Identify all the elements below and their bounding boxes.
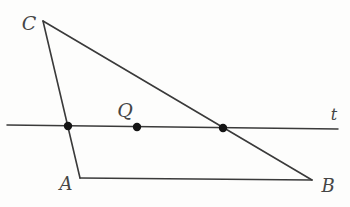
- side-CA: [43, 21, 80, 178]
- geometry-figure: CABQt: [0, 0, 350, 207]
- label-B: B: [320, 175, 334, 196]
- intersection-CA-t-dot: [64, 122, 72, 130]
- line-t: [7, 125, 338, 129]
- point-Q-dot: [133, 123, 141, 131]
- side-AB: [80, 178, 312, 180]
- label-t: t: [331, 105, 338, 124]
- side-CB: [43, 21, 312, 180]
- geometry-canvas: CABQt: [0, 0, 350, 207]
- intersection-CB-t-dot: [219, 124, 227, 132]
- label-C: C: [22, 12, 37, 34]
- label-Q: Q: [117, 99, 133, 121]
- label-A: A: [58, 173, 73, 194]
